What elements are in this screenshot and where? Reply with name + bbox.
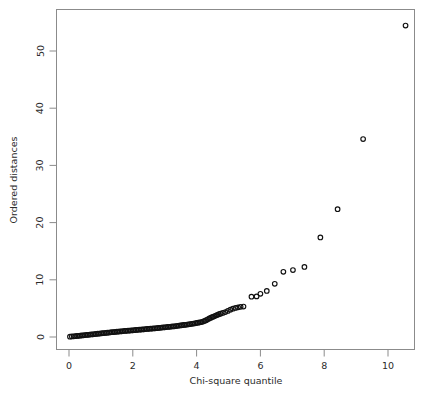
y-tick-label: 40: [35, 102, 46, 114]
y-tick-label: 20: [35, 217, 46, 229]
plot-canvas: 0246810 01020304050 Chi-square quantile …: [0, 0, 432, 410]
x-tick-label: 4: [194, 360, 200, 371]
x-tick-label: 6: [257, 360, 263, 371]
x-axis-title: Chi-square quantile: [190, 375, 283, 386]
x-tick-label: 2: [130, 360, 136, 371]
y-tick-label: 10: [35, 274, 46, 286]
y-tick-label: 50: [35, 45, 46, 57]
x-tick-label: 10: [382, 360, 394, 371]
x-tick-label: 8: [321, 360, 327, 371]
y-tick-label: 30: [35, 159, 46, 171]
y-tick-label: 0: [35, 334, 46, 340]
plot-background: [0, 0, 432, 410]
chi-square-qq-plot: 0246810 01020304050 Chi-square quantile …: [0, 0, 432, 410]
x-tick-label: 0: [66, 360, 72, 371]
y-axis-title: Ordered distances: [8, 137, 19, 224]
